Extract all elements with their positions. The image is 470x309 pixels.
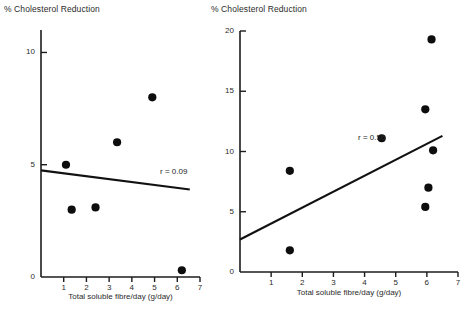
data-point bbox=[286, 246, 294, 254]
x-axis-label-left: Total soluble fibre/day (g/day) bbox=[16, 292, 226, 301]
chart-panel-left: % Cholesterol Reduction 05101234567 Tota… bbox=[0, 0, 210, 309]
data-point bbox=[421, 203, 429, 211]
y-tick-label: 20 bbox=[206, 26, 234, 35]
x-tick-label: 6 bbox=[417, 278, 437, 287]
data-point bbox=[113, 138, 121, 146]
x-tick-label: 1 bbox=[261, 278, 281, 287]
x-tick-label: 4 bbox=[122, 283, 142, 292]
y-tick-label: 15 bbox=[206, 86, 234, 95]
x-tick-label: 7 bbox=[448, 278, 468, 287]
data-point bbox=[427, 35, 435, 43]
x-tick-label: 2 bbox=[76, 283, 96, 292]
data-point bbox=[421, 105, 429, 113]
x-tick-label: 3 bbox=[99, 283, 119, 292]
data-point bbox=[91, 203, 99, 211]
data-point bbox=[178, 266, 186, 274]
data-point bbox=[148, 93, 156, 101]
scatter-plot-right bbox=[205, 0, 470, 309]
y-tick-label: 0 bbox=[206, 267, 234, 276]
y-tick-label: 10 bbox=[7, 47, 35, 56]
x-tick-label: 6 bbox=[167, 283, 187, 292]
x-tick-label: 3 bbox=[323, 278, 343, 287]
y-tick-label: 5 bbox=[206, 207, 234, 216]
x-tick-label: 1 bbox=[54, 283, 74, 292]
correlation-annotation-right: r = 0.56 bbox=[358, 133, 385, 142]
x-tick-label: 2 bbox=[292, 278, 312, 287]
data-point bbox=[429, 146, 437, 154]
x-axis-label-right: Total soluble fibre/day (g/day) bbox=[217, 288, 470, 297]
data-point bbox=[424, 184, 432, 192]
x-tick-label: 5 bbox=[386, 278, 406, 287]
data-point bbox=[286, 167, 294, 175]
x-tick-label: 4 bbox=[355, 278, 375, 287]
x-tick-label: 5 bbox=[145, 283, 165, 292]
data-point bbox=[62, 161, 70, 169]
y-tick-label: 5 bbox=[7, 160, 35, 169]
y-tick-label: 10 bbox=[206, 147, 234, 156]
chart-panel-right: % Cholesterol Reduction 051015201234567 … bbox=[205, 0, 470, 309]
scatter-plot-left bbox=[0, 0, 210, 309]
correlation-annotation-left: r = 0.09 bbox=[160, 167, 187, 176]
regression-line bbox=[240, 136, 442, 240]
data-point bbox=[68, 206, 76, 214]
y-tick-label: 0 bbox=[7, 272, 35, 281]
